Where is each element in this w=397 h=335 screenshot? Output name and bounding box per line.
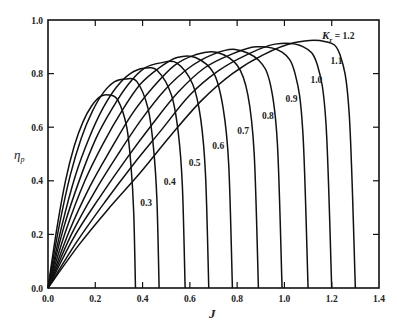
curve-label-k-1.0: 1.0 xyxy=(310,75,322,85)
curve-label-k-0.4: 0.4 xyxy=(164,177,176,187)
efficiency-curve-k-0.8 xyxy=(48,52,258,288)
y-axis-title: ηp xyxy=(14,147,24,164)
curve-label-k-0.9: 0.9 xyxy=(286,94,298,104)
x-tick-label: 0.8 xyxy=(231,294,243,304)
y-tick-label: 0.2 xyxy=(31,230,43,240)
y-tick-label: 0.0 xyxy=(31,284,43,294)
x-tick-label: 1.0 xyxy=(278,294,290,304)
x-axis-title: J xyxy=(208,306,216,321)
y-tick-label: 1.0 xyxy=(31,16,43,26)
y-tick-label: 0.8 xyxy=(31,69,43,79)
curve-label-k-0.3: 0.3 xyxy=(140,198,152,208)
x-tick-label: 1.2 xyxy=(326,294,338,304)
y-tick-label: 0.6 xyxy=(31,123,43,133)
curve-label-k-0.8: 0.8 xyxy=(262,111,274,121)
efficiency-curves xyxy=(48,40,355,288)
x-tick-label: 0.0 xyxy=(42,294,54,304)
x-tick-label: 0.2 xyxy=(89,294,101,304)
y-tick-label: 0.4 xyxy=(31,176,43,186)
efficiency-curve-k-1.2 xyxy=(48,40,355,288)
curve-label-k-0.5: 0.5 xyxy=(189,158,201,168)
curve-label-k-1.1: 1.1 xyxy=(331,56,343,66)
x-tick-label: 0.4 xyxy=(137,294,149,304)
x-tick-label: 0.6 xyxy=(184,294,196,304)
x-tick-label: 1.4 xyxy=(373,294,385,304)
curve-label-k-0.7: 0.7 xyxy=(237,126,249,136)
curve-label-k-0.6: 0.6 xyxy=(212,141,224,151)
curve-labels: 0.30.40.50.60.70.80.91.01.1 xyxy=(140,56,342,208)
efficiency-curve-k-1.0 xyxy=(48,47,308,288)
efficiency-chart: 0.30.40.50.60.70.80.91.01.1 0.00.20.40.6… xyxy=(0,0,397,335)
